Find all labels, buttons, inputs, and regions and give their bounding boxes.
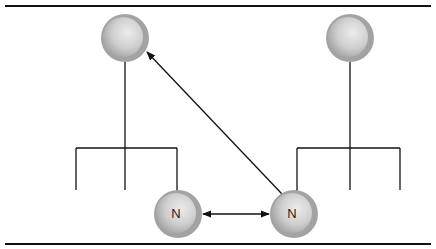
- right-tree: [297, 62, 400, 191]
- diagram-canvas: N N: [0, 0, 436, 249]
- network-diagram: N N: [0, 0, 436, 249]
- left-tree: [76, 62, 177, 191]
- node-bottom-left: N: [154, 190, 202, 238]
- node-label: N: [287, 206, 296, 221]
- node-label: N: [171, 206, 180, 221]
- node-top-left: [101, 14, 149, 62]
- arrow-to-top-left: [147, 52, 282, 194]
- node-bottom-right: N: [270, 190, 318, 238]
- node-top-right: [326, 14, 374, 62]
